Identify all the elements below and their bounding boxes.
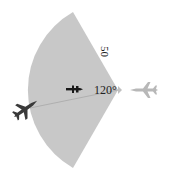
target-jet-icon: [130, 82, 158, 98]
vertex-marker-icon: [118, 86, 122, 94]
diagram-canvas: [0, 0, 175, 184]
sector-angle-label: 120°: [94, 84, 117, 96]
sector-range-label: 50: [99, 46, 110, 57]
